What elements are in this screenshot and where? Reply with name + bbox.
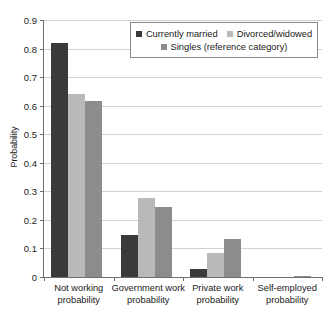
x-tick-label-line: Self-employed (247, 283, 329, 295)
legend-item-currently-married[interactable]: Currently married (136, 29, 218, 39)
y-tick-mark (40, 106, 44, 107)
bar[interactable] (68, 94, 85, 277)
x-tick-mark (44, 277, 45, 281)
bar-group (114, 20, 184, 277)
legend-item-divorced-widowed[interactable]: Divorced/widowed (227, 29, 312, 39)
legend-swatch-icon (161, 44, 167, 50)
bars-layer (44, 20, 322, 277)
y-tick-mark (40, 77, 44, 78)
x-tick-label: Self-employedprobability (247, 283, 329, 306)
bar[interactable] (155, 207, 172, 277)
bar[interactable] (138, 198, 155, 277)
y-tick-label: 0.1 (0, 243, 37, 254)
bar[interactable] (121, 235, 138, 277)
y-tick-mark (40, 20, 44, 21)
y-axis-title: Probability (9, 102, 19, 192)
x-tick-mark (322, 277, 323, 281)
legend-row-top: Currently married Divorced/widowed (136, 27, 312, 40)
bar-group (183, 20, 253, 277)
legend-label: Currently married (146, 29, 218, 39)
bar[interactable] (224, 239, 241, 277)
x-tick-mark (114, 277, 115, 281)
legend-swatch-icon (136, 31, 142, 37)
legend-label: Divorced/widowed (237, 29, 312, 39)
x-tick-label-line: probability (247, 295, 329, 307)
bar[interactable] (190, 269, 207, 277)
y-tick-label: 0.5 (0, 129, 37, 140)
y-tick-mark (40, 191, 44, 192)
y-tick-label: 0.3 (0, 186, 37, 197)
x-tick-mark (183, 277, 184, 281)
y-tick-mark (40, 134, 44, 135)
y-tick-label: 0.4 (0, 157, 37, 168)
legend-row-bottom: Singles (reference category) (136, 40, 312, 53)
bar[interactable] (51, 43, 68, 277)
y-tick-mark (40, 220, 44, 221)
y-tick-label: 0 (0, 272, 37, 283)
bar-group (253, 20, 323, 277)
bar[interactable] (207, 253, 224, 277)
legend-item-singles[interactable]: Singles (reference category) (161, 42, 288, 52)
plot-area (44, 20, 322, 277)
y-tick-label: 0.2 (0, 214, 37, 225)
legend: Currently married Divorced/widowed Singl… (130, 22, 318, 58)
x-tick-mark (253, 277, 254, 281)
bar[interactable] (294, 276, 311, 277)
legend-label: Singles (reference category) (171, 42, 288, 52)
y-tick-label: 0.9 (0, 15, 37, 26)
y-tick-label: 0.7 (0, 72, 37, 83)
y-tick-mark (40, 49, 44, 50)
y-tick-label: 0.8 (0, 43, 37, 54)
legend-swatch-icon (227, 31, 233, 37)
bar-chart: Probability 0.90.80.70.60.50.40.30.20.10… (0, 0, 334, 322)
y-tick-label: 0.6 (0, 100, 37, 111)
y-tick-mark (40, 248, 44, 249)
bar-group (44, 20, 114, 277)
bar[interactable] (85, 101, 102, 277)
y-tick-mark (40, 163, 44, 164)
